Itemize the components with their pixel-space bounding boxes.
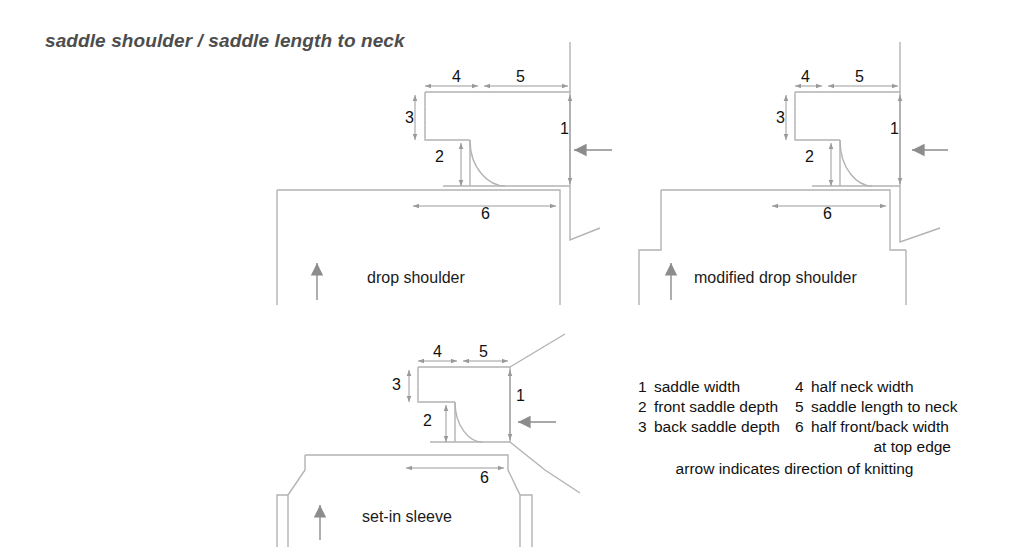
- legend-note: arrow indicates direction of knitting: [638, 459, 951, 479]
- caption-set-in-sleeve: set-in sleeve: [362, 508, 452, 526]
- legend-text-6: half front/back width: [811, 417, 949, 437]
- legend-text-1: saddle width: [654, 377, 740, 397]
- legend-text-2: front saddle depth: [654, 397, 778, 417]
- legend-entry-1: 1 saddle width: [638, 377, 795, 397]
- diagram-modified-drop-shoulder: [639, 42, 948, 305]
- dimension-label-2-diagram3: 2: [423, 412, 432, 430]
- dimension-label-5-diagram1: 5: [516, 68, 525, 86]
- legend-key-1: 1: [638, 377, 654, 397]
- dimension-label-4-diagram2: 4: [801, 68, 810, 86]
- legend-key-2: 2: [638, 397, 654, 417]
- legend-text-3: back saddle depth: [654, 417, 780, 437]
- legend-entry-3: 3 back saddle depth: [638, 417, 795, 437]
- dimension-label-6-diagram2: 6: [823, 205, 832, 223]
- dimension-label-6-diagram1: 6: [481, 205, 490, 223]
- dimension-label-1-diagram3: 1: [516, 387, 525, 405]
- caption-drop-shoulder: drop shoulder: [367, 269, 465, 287]
- caption-modified-drop-shoulder: modified drop shoulder: [694, 269, 857, 287]
- dimension-label-4-diagram1: 4: [452, 68, 461, 86]
- legend-continuation: at top edge: [638, 437, 951, 457]
- dimension-label-1-diagram1: 1: [560, 120, 569, 138]
- legend: 1 saddle width 4 half neck width 2 front…: [638, 377, 958, 479]
- legend-key-5: 5: [795, 397, 811, 417]
- legend-key-6: 6: [795, 417, 811, 437]
- legend-key-3: 3: [638, 417, 654, 437]
- dimension-label-3-diagram3: 3: [392, 376, 401, 394]
- diagram-page: saddle shoulder / saddle length to neck: [0, 0, 1011, 547]
- legend-entry-5: 5 saddle length to neck: [795, 397, 958, 417]
- dimension-label-2-diagram2: 2: [805, 148, 814, 166]
- legend-row: 2 front saddle depth 5 saddle length to …: [638, 397, 958, 417]
- diagram-drop-shoulder: [277, 42, 612, 305]
- legend-text-5: saddle length to neck: [811, 397, 958, 417]
- dimension-label-1-diagram2: 1: [890, 120, 899, 138]
- dimension-label-3-diagram2: 3: [776, 109, 785, 127]
- dimension-label-2-diagram1: 2: [435, 148, 444, 166]
- legend-row: 3 back saddle depth 6 half front/back wi…: [638, 417, 958, 437]
- legend-text-4: half neck width: [811, 377, 914, 397]
- legend-entry-4: 4 half neck width: [795, 377, 914, 397]
- legend-key-4: 4: [795, 377, 811, 397]
- legend-entry-2: 2 front saddle depth: [638, 397, 795, 417]
- dimension-label-5-diagram3: 5: [479, 343, 488, 361]
- dimension-label-6-diagram3: 6: [480, 469, 489, 487]
- legend-row: 1 saddle width 4 half neck width: [638, 377, 958, 397]
- dimension-label-5-diagram2: 5: [855, 68, 864, 86]
- dimension-label-4-diagram3: 4: [433, 343, 442, 361]
- legend-entry-6: 6 half front/back width: [795, 417, 949, 437]
- dimension-label-3-diagram1: 3: [405, 109, 414, 127]
